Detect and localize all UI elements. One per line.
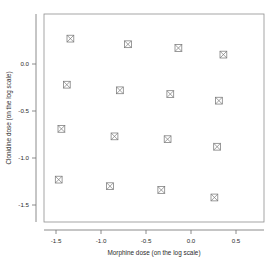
x-tick-label: -1.0 — [96, 237, 107, 244]
x-tick-label: 0.0 — [187, 237, 196, 244]
y-tick-label: -1.0 — [18, 154, 29, 161]
data-point-marker — [111, 133, 118, 140]
data-point-marker — [214, 143, 221, 150]
plot-canvas: -1.5-1.0-0.50.00.5 Morphine dose (on the… — [0, 0, 277, 261]
x-axis-title: Morphine dose (on the log scale) — [107, 249, 200, 257]
scatter-plot-figure: -1.5-1.0-0.50.00.5 Morphine dose (on the… — [0, 0, 277, 261]
data-point-marker — [67, 35, 74, 42]
x-axis-ticks — [56, 230, 236, 234]
y-tick-label: 0.0 — [20, 60, 29, 67]
x-tick-label: -1.5 — [51, 237, 62, 244]
data-point-marker — [107, 183, 114, 190]
y-axis-title: Clonidine dose (on the log scale) — [5, 71, 13, 164]
y-tick-label: -1.5 — [18, 201, 29, 208]
x-tick-label: 0.5 — [232, 237, 241, 244]
data-point-marker — [164, 136, 171, 143]
y-axis: 0.0-0.5-1.0-1.5 Clonidine dose (on the l… — [5, 14, 36, 222]
data-point-marker — [220, 51, 227, 58]
data-point-marker — [58, 125, 65, 132]
data-point-marker — [117, 87, 124, 94]
y-axis-tick-labels: 0.0-0.5-1.0-1.5 — [18, 60, 29, 208]
data-point-marker — [175, 45, 182, 52]
data-point-marker — [63, 81, 70, 88]
data-point-marker — [55, 176, 62, 183]
x-axis: -1.5-1.0-0.50.00.5 Morphine dose (on the… — [44, 230, 264, 257]
data-point-marker — [216, 97, 223, 104]
y-tick-label: -0.5 — [18, 107, 29, 114]
data-point-marker — [211, 194, 218, 201]
y-axis-ticks — [32, 64, 36, 205]
data-point-marker — [125, 41, 132, 48]
data-point-marker — [158, 187, 165, 194]
x-axis-tick-labels: -1.5-1.0-0.50.00.5 — [51, 237, 241, 244]
x-tick-label: -0.5 — [141, 237, 152, 244]
plot-frame — [44, 14, 264, 222]
data-point-marker — [167, 91, 174, 98]
data-point-series — [55, 35, 227, 201]
